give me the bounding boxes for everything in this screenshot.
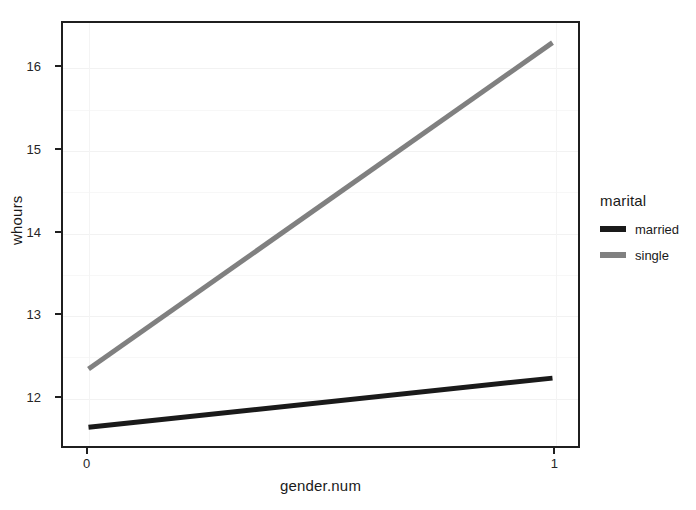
legend-swatch-married [600, 226, 626, 232]
y-tick-label-12: 12 [27, 390, 41, 403]
x-axis-title: gender.num [61, 477, 580, 494]
legend-swatch-single [600, 252, 626, 258]
plot-area [61, 21, 580, 448]
x-tick-mark-0 [86, 448, 88, 454]
y-tick-label-13: 13 [27, 308, 41, 321]
legend-label-single: single [635, 249, 669, 262]
y-tick-label-15: 15 [27, 143, 41, 156]
x-tick-label-0: 0 [83, 457, 90, 470]
legend-item-single[interactable]: single [600, 248, 694, 262]
legend-entries: marriedsingle [600, 222, 694, 262]
y-axis-title: whours [8, 195, 25, 245]
x-tick-label-1: 1 [551, 457, 558, 470]
legend: marital marriedsingle [600, 192, 694, 274]
series-lines [63, 23, 578, 446]
series-line-married [89, 378, 553, 427]
y-tick-mark-13 [55, 313, 61, 315]
y-tick-label-14: 14 [27, 225, 41, 238]
y-axis-ticks: 1213141516 [0, 0, 53, 510]
chart-figure: 1213141516 01 whours gender.num marital … [0, 0, 696, 510]
legend-title: marital [600, 192, 694, 209]
series-line-single [89, 43, 553, 369]
x-tick-mark-1 [553, 448, 555, 454]
legend-item-married[interactable]: married [600, 222, 694, 236]
y-tick-mark-16 [55, 65, 61, 67]
legend-label-married: married [635, 223, 679, 236]
y-tick-mark-15 [55, 148, 61, 150]
y-tick-mark-14 [55, 231, 61, 233]
y-tick-mark-12 [55, 396, 61, 398]
y-tick-label-16: 16 [27, 60, 41, 73]
